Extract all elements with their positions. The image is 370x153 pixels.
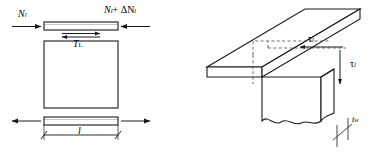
label-shear-stress-web-subscript: l (354, 61, 356, 68)
label-shear-stress-flange: τl (308, 33, 314, 44)
label-force-left-symbol: N (18, 8, 25, 19)
flange-front-face (207, 67, 262, 77)
label-force-right-symbol: N (104, 4, 111, 15)
web-thickness-dimension (321, 118, 352, 147)
bottom-flange-plate (44, 117, 118, 125)
label-web-thickness-subscript: w (355, 117, 359, 123)
label-shear-stress-web: τl (350, 58, 356, 69)
label-force-right: Nl+ ΔNl (104, 4, 136, 15)
web-front-face (262, 77, 321, 124)
label-force-left-subscript: l (25, 11, 27, 18)
right-panel-group (207, 9, 360, 147)
label-length-dimension-symbol: l (78, 125, 81, 136)
label-force-right-subscript-2: l (134, 7, 136, 14)
label-length-dimension: l (78, 125, 81, 136)
shear-couple-arrows (62, 34, 100, 38)
label-shear-force-subscript: L (79, 41, 83, 48)
label-shear-stress-flange-subscript: l (312, 36, 314, 43)
figure-root: Nl Nl+ ΔNl TL l τl τl tw (0, 0, 370, 153)
top-flange-plate (44, 22, 118, 30)
length-dimension-line (44, 125, 118, 140)
web-block-square (44, 41, 118, 108)
web-side-face (321, 69, 334, 121)
label-force-right-increment: + ΔN (113, 4, 135, 15)
engineering-figure-svg (0, 0, 370, 153)
label-shear-force: TL (73, 38, 83, 49)
label-force-left: Nl (18, 8, 27, 19)
label-web-thickness: tw (352, 114, 359, 124)
